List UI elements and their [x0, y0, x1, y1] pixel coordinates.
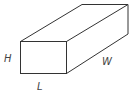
top-right-edge — [67, 5, 129, 42]
front-face — [21, 42, 67, 74]
length-label: L — [37, 81, 43, 92]
top-left-edge — [21, 5, 83, 42]
bottom-right-edge — [67, 34, 129, 74]
height-label: H — [4, 53, 12, 64]
width-label: W — [102, 56, 113, 67]
box-diagram: H L W — [0, 0, 130, 94]
